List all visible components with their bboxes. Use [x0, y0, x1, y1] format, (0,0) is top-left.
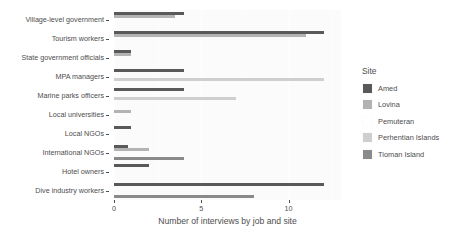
legend-color-swatch	[363, 100, 372, 109]
x-axis-tick	[201, 200, 202, 203]
bar	[114, 148, 149, 151]
y-axis-tick-label: International NGOs	[42, 143, 104, 162]
bar-group	[114, 126, 341, 141]
y-axis-tick-label: State government officials	[21, 48, 104, 67]
bar-group	[114, 183, 341, 198]
y-axis-labels: Village-level governmentTourism workersS…	[0, 10, 110, 200]
bar-group	[114, 164, 341, 179]
plot-panel	[114, 10, 341, 200]
y-axis-tick-label: Hotel owners	[62, 162, 104, 181]
bar	[114, 183, 324, 186]
x-axis-tick	[114, 200, 115, 203]
bar	[114, 164, 149, 167]
legend-swatch-box	[362, 149, 373, 160]
x-axis: 0510	[114, 200, 341, 214]
bar-group	[114, 31, 341, 46]
legend-color-swatch	[363, 150, 372, 159]
bar	[114, 157, 184, 160]
bar	[114, 69, 184, 72]
x-axis-tick-label: 5	[199, 204, 203, 213]
y-axis-tick	[106, 134, 109, 135]
bar	[114, 97, 236, 100]
y-axis-tick	[106, 77, 109, 78]
legend-swatch-box	[362, 99, 373, 110]
bar-chart-figure: Village-level governmentTourism workersS…	[0, 0, 462, 242]
legend-item-label: Tioman Island	[378, 150, 424, 159]
y-axis-tick	[106, 20, 109, 21]
bar	[114, 195, 254, 198]
bar	[114, 15, 175, 18]
bar-group	[114, 50, 341, 65]
y-axis-tick	[106, 172, 109, 173]
y-axis-tick	[106, 96, 109, 97]
legend-color-swatch	[363, 133, 372, 142]
legend-title: Site	[362, 66, 458, 76]
y-axis-tick	[106, 153, 109, 154]
y-axis-tick-label: Local universities	[49, 105, 104, 124]
legend-item: Tioman Island	[362, 147, 458, 161]
legend-item: Amed	[362, 81, 458, 95]
bar	[114, 34, 306, 37]
y-axis-tick	[106, 115, 109, 116]
y-axis-tick-label: MPA managers	[55, 67, 104, 86]
y-axis-tick	[106, 58, 109, 59]
legend-item: Lovina	[362, 98, 458, 112]
y-axis-tick-label: Dive industry workers	[35, 181, 104, 200]
y-axis-tick-label: Marine parks officers	[37, 86, 104, 105]
bar-group	[114, 12, 341, 27]
bar	[114, 53, 131, 56]
y-axis-tick-label: Local NGOs	[65, 124, 104, 143]
legend-item: Perhentian Islands	[362, 131, 458, 145]
legend-items: AmedLovinaPemuteranPerhentian IslandsTio…	[362, 81, 458, 161]
legend-item-label: Lovina	[378, 100, 400, 109]
x-axis-title: Number of interviews by job and site	[114, 216, 341, 226]
bar-group	[114, 88, 341, 103]
x-axis-tick-label: 0	[112, 204, 116, 213]
legend: Site AmedLovinaPemuteranPerhentian Islan…	[362, 66, 458, 164]
y-axis-tick	[106, 191, 109, 192]
legend-item-label: Amed	[378, 84, 397, 93]
bar	[114, 126, 131, 129]
legend-swatch-box	[362, 83, 373, 94]
legend-color-swatch	[363, 84, 372, 93]
bar-group	[114, 107, 341, 122]
y-axis-tick-label: Tourism workers	[52, 29, 104, 48]
legend-swatch-box	[362, 132, 373, 143]
bar-group	[114, 145, 341, 160]
legend-item: Pemuteran	[362, 114, 458, 128]
legend-item-label: Pemuteran	[378, 117, 414, 126]
legend-item-label: Perhentian Islands	[378, 133, 439, 142]
bar	[114, 78, 324, 81]
y-axis-tick	[106, 39, 109, 40]
y-axis-tick-label: Village-level government	[25, 10, 104, 29]
legend-swatch-box	[362, 116, 373, 127]
bar	[114, 88, 184, 91]
bar-group	[114, 69, 341, 84]
bar	[114, 110, 131, 113]
x-axis-tick	[289, 200, 290, 203]
x-axis-tick-label: 10	[285, 204, 293, 213]
legend-color-swatch	[363, 117, 372, 126]
